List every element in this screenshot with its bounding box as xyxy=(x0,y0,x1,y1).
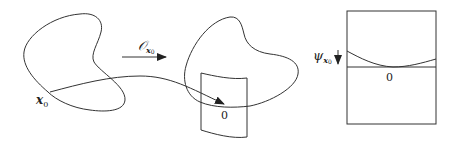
right-origin-label: 0 xyxy=(386,71,393,84)
psi-curve xyxy=(347,51,436,67)
x0-label: x0 xyxy=(35,93,48,109)
patch-origin-label: 0 xyxy=(221,109,228,122)
map-label: 𝒪x0 xyxy=(138,38,155,55)
patch-chart xyxy=(201,73,247,137)
diagram-canvas: x0 𝒪x0 0 ψx0 0 xyxy=(0,0,458,144)
psi-label: ψx0 xyxy=(313,48,332,65)
connecting-curve xyxy=(50,76,224,104)
